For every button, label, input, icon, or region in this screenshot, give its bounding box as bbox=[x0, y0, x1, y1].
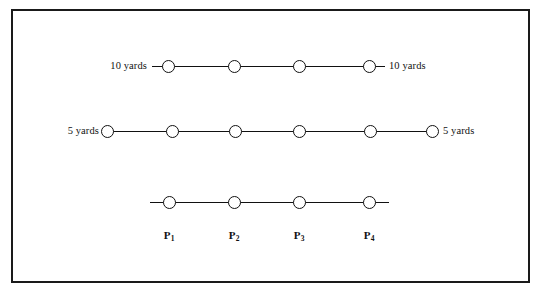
point-label-base: P bbox=[229, 229, 236, 241]
node-circle bbox=[363, 60, 376, 73]
point-label-subscript: 4 bbox=[371, 234, 375, 243]
node-circle bbox=[293, 196, 306, 209]
row-left-label-10-yards: 10 yards bbox=[110, 61, 147, 72]
point-label-subscript: 3 bbox=[301, 234, 305, 243]
row-left-label-5-yards: 5 yards bbox=[68, 126, 99, 137]
node-circle bbox=[293, 60, 306, 73]
row-right-label-5-yards: 5 yards bbox=[443, 126, 474, 137]
node-circle bbox=[364, 125, 377, 138]
point-label-p4: P4 bbox=[364, 230, 374, 241]
node-circle bbox=[363, 196, 376, 209]
node-circle bbox=[162, 60, 175, 73]
row-line-10-yards bbox=[152, 66, 385, 67]
node-circle bbox=[229, 125, 242, 138]
point-label-p2: P2 bbox=[229, 230, 239, 241]
node-circle bbox=[166, 125, 179, 138]
row-line-5-yards bbox=[104, 131, 438, 132]
row-line-points bbox=[150, 202, 389, 203]
node-circle bbox=[293, 125, 306, 138]
node-circle bbox=[101, 125, 114, 138]
node-circle bbox=[228, 196, 241, 209]
point-label-subscript: 2 bbox=[236, 234, 240, 243]
point-label-base: P bbox=[364, 229, 371, 241]
point-label-p1: P1 bbox=[164, 230, 174, 241]
node-circle bbox=[228, 60, 241, 73]
point-label-subscript: 1 bbox=[171, 234, 175, 243]
point-label-base: P bbox=[164, 229, 171, 241]
point-label-p3: P3 bbox=[294, 230, 304, 241]
node-circle bbox=[426, 125, 439, 138]
figure-border-frame bbox=[11, 9, 530, 283]
node-circle bbox=[163, 196, 176, 209]
row-right-label-10-yards: 10 yards bbox=[389, 61, 426, 72]
figure-root: 10 yards 10 yards 5 yards 5 yards P1P2P3… bbox=[0, 0, 536, 291]
point-label-base: P bbox=[294, 229, 301, 241]
